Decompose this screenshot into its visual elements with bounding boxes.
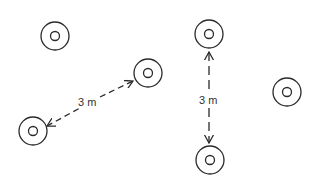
marker-3 (19, 117, 47, 145)
vertical-distance-label: 3 m (199, 94, 217, 106)
diagonal-arrow-upper (100, 81, 133, 97)
spacing-diagram: 3 m 3 m (0, 0, 314, 183)
diagonal-distance-label: 3 m (78, 96, 96, 108)
marker-4 (195, 20, 223, 48)
marker-5 (196, 146, 224, 174)
marker-1 (41, 22, 69, 50)
diagonal-dimension: 3 m (47, 81, 133, 126)
marker-6 (273, 78, 301, 106)
vertical-dimension: 3 m (199, 52, 217, 143)
marker-2 (134, 59, 162, 87)
diagonal-arrow-lower (47, 108, 80, 126)
